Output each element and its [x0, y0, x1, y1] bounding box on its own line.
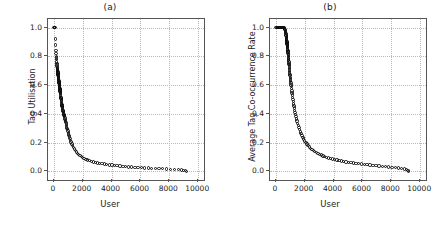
data-point [321, 154, 324, 157]
data-point [59, 96, 62, 99]
y-tick-mark [266, 84, 269, 85]
data-point [56, 67, 59, 70]
gridline-vertical [420, 19, 421, 180]
data-point [61, 105, 64, 108]
data-point [368, 163, 371, 166]
data-point [287, 60, 290, 63]
gridline-horizontal [48, 171, 204, 172]
data-point [397, 166, 400, 169]
data-point [285, 42, 288, 45]
x-tick-label: 6000 [352, 184, 371, 193]
data-point [59, 95, 62, 98]
data-point [286, 47, 289, 50]
data-point [347, 161, 350, 164]
gridline-horizontal [270, 143, 426, 144]
data-point [57, 77, 60, 80]
data-point [92, 160, 95, 163]
data-point [60, 99, 63, 102]
x-tick-mark [275, 179, 276, 182]
data-point [113, 164, 116, 167]
data-point [56, 73, 59, 76]
data-point [286, 45, 289, 48]
data-point [310, 148, 313, 151]
gridline-horizontal [48, 56, 204, 57]
data-point [66, 128, 69, 131]
data-point [98, 162, 101, 165]
data-point [387, 165, 390, 168]
data-point [59, 93, 62, 96]
data-point [309, 147, 312, 150]
data-point [318, 153, 321, 156]
data-point [64, 119, 67, 122]
data-point [286, 46, 289, 49]
panel-b: (b) Average Tag Co-occurrence Rate User … [220, 0, 440, 229]
data-point [287, 58, 290, 61]
data-point [59, 91, 62, 94]
data-point [287, 62, 290, 65]
data-point [286, 45, 289, 48]
data-point [286, 44, 289, 47]
data-point [294, 115, 297, 118]
data-point [154, 167, 157, 170]
x-tick-label: 2000 [72, 184, 91, 193]
data-point [308, 145, 311, 148]
data-point [61, 106, 64, 109]
data-point [115, 164, 118, 167]
data-point [58, 89, 61, 92]
y-tick-label: 0.8 [237, 51, 264, 60]
data-point [57, 79, 60, 82]
data-point [374, 164, 377, 167]
y-tick-mark [266, 170, 269, 171]
data-point [61, 106, 64, 109]
data-point [316, 152, 319, 155]
x-tick-label: 6000 [130, 184, 149, 193]
data-point [136, 166, 139, 169]
gridline-vertical [83, 19, 84, 180]
data-point [78, 154, 81, 157]
data-point [56, 68, 59, 71]
data-point [56, 68, 59, 71]
y-tick-mark [44, 27, 47, 28]
data-point [306, 144, 309, 147]
data-point [284, 34, 287, 37]
y-tick-mark [266, 55, 269, 56]
data-point [295, 119, 298, 122]
gridline-vertical [305, 19, 306, 180]
data-point [291, 96, 294, 99]
data-point [56, 71, 59, 74]
data-point [88, 159, 91, 162]
x-tick-label: 10000 [407, 184, 431, 193]
data-point [57, 80, 60, 83]
data-point [56, 72, 59, 75]
panel-b-title: (b) [220, 2, 440, 12]
data-point [60, 98, 63, 101]
data-point [56, 70, 59, 73]
data-point [286, 52, 289, 55]
data-point [300, 134, 303, 137]
data-point [288, 68, 291, 71]
y-tick-label: 0.2 [15, 137, 42, 146]
data-point [285, 39, 288, 42]
data-point [58, 88, 61, 91]
data-point [313, 150, 316, 153]
data-point [285, 38, 288, 41]
data-point [68, 135, 71, 138]
data-point [63, 116, 66, 119]
data-point [286, 50, 289, 53]
data-point [289, 78, 292, 81]
data-point [293, 109, 296, 112]
x-tick-label: 2000 [294, 184, 313, 193]
data-point [287, 63, 290, 66]
data-point [288, 67, 291, 70]
data-point [94, 161, 97, 164]
data-point [130, 165, 133, 168]
panel-a: (a) Tag Utilisation User 020004000600080… [0, 0, 220, 229]
data-point [64, 120, 67, 123]
data-point [55, 60, 58, 63]
data-point [284, 30, 287, 33]
data-point [293, 106, 296, 109]
data-point [323, 155, 326, 158]
y-tick-mark [44, 170, 47, 171]
x-tick-mark [361, 179, 362, 182]
data-point [60, 101, 63, 104]
